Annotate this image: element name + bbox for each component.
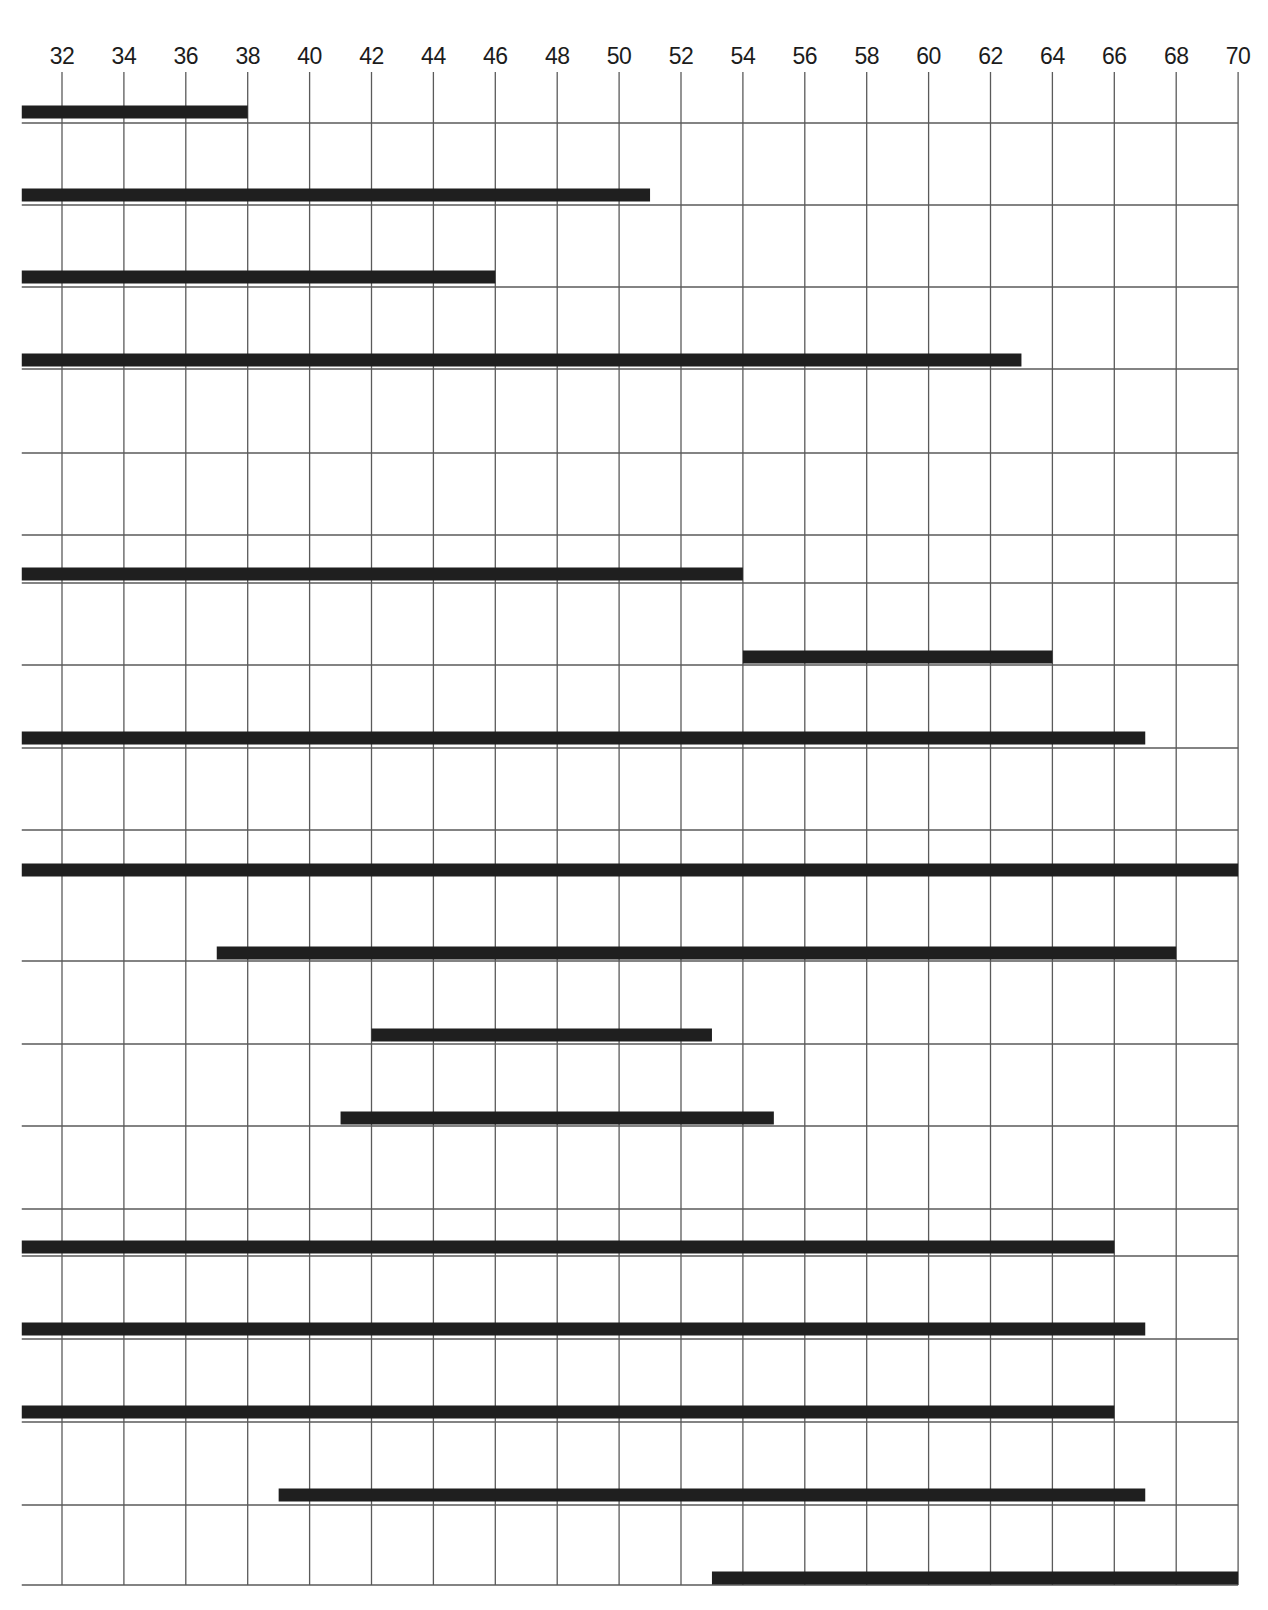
x-tick-label: 62	[978, 43, 1003, 69]
vertical-gridlines	[62, 72, 1238, 1585]
range-bar-row-13	[22, 1323, 1145, 1336]
range-bar-row-1	[22, 106, 248, 119]
horizontal-row-lines	[22, 123, 1238, 1585]
x-tick-label: 60	[916, 43, 941, 69]
range-bar-row-3	[22, 271, 496, 284]
range-bar-row-12	[22, 1241, 1115, 1254]
bars	[22, 106, 1238, 1585]
x-tick-label: 54	[731, 43, 756, 69]
x-tick-label: 40	[297, 43, 322, 69]
range-bar-chart: 3234363840424446485052545658606264666870	[0, 0, 1268, 1610]
x-tick-label: 58	[854, 43, 879, 69]
range-bar-row-4	[22, 354, 1022, 367]
range-bar-row-10	[372, 1029, 712, 1042]
range-bar-row-7	[22, 732, 1145, 745]
x-tick-label: 66	[1102, 43, 1127, 69]
x-tick-label: 38	[235, 43, 260, 69]
x-tick-label: 70	[1226, 43, 1251, 69]
x-tick-label: 34	[112, 43, 137, 69]
range-bar-row-9	[217, 947, 1176, 960]
range-bar-row-8	[22, 864, 1238, 877]
range-bar-row-2	[22, 189, 650, 202]
x-tick-label: 46	[483, 43, 508, 69]
x-axis-tick-labels: 3234363840424446485052545658606264666870	[50, 43, 1251, 69]
range-bar-row-5	[22, 568, 743, 581]
range-bar-row-16	[712, 1572, 1238, 1585]
x-tick-label: 52	[669, 43, 694, 69]
x-tick-label: 50	[607, 43, 632, 69]
x-tick-label: 42	[359, 43, 384, 69]
range-bar-row-11	[341, 1112, 774, 1125]
x-tick-label: 56	[793, 43, 818, 69]
x-tick-label: 64	[1040, 43, 1065, 69]
range-bar-row-6	[743, 651, 1053, 664]
range-bar-row-14	[22, 1406, 1115, 1419]
x-tick-label: 68	[1164, 43, 1189, 69]
x-tick-label: 48	[545, 43, 570, 69]
x-tick-label: 36	[174, 43, 199, 69]
x-tick-label: 44	[421, 43, 446, 69]
x-tick-label: 32	[50, 43, 75, 69]
range-bar-row-15	[279, 1489, 1146, 1502]
